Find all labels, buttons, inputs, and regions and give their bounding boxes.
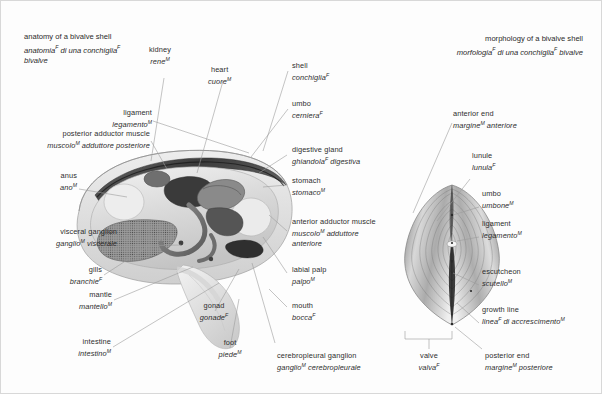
label-lunule: lunule lunulaF bbox=[472, 151, 495, 173]
label-foot-it: piedeM bbox=[201, 348, 259, 360]
label-heart-en: heart bbox=[208, 65, 231, 75]
label-foot-en: foot bbox=[201, 338, 259, 348]
label-valve: valve valvaF bbox=[403, 351, 455, 373]
label-umbo-left-en: umbo bbox=[292, 99, 323, 109]
label-anus-en: anus bbox=[25, 171, 77, 181]
label-stomach-it: stomacoM bbox=[292, 186, 325, 198]
label-lunule-it: lunulaF bbox=[472, 161, 495, 173]
label-escutcheon: escutcheon scutelloM bbox=[482, 267, 521, 289]
label-mantle: mantle mantelloM bbox=[49, 290, 112, 312]
label-lunule-en: lunule bbox=[472, 151, 495, 161]
label-posterior-end-it: margineM posteriore bbox=[485, 361, 553, 373]
label-labial-palp: labial palp palpoM bbox=[292, 265, 326, 287]
label-anterior-adductor-it2: anteriore bbox=[292, 239, 376, 249]
title-right-it: morfologiaF di una conchigliaF bivalve bbox=[457, 44, 583, 58]
title-left-it: anatomiaF di una conchigliaF bbox=[24, 42, 120, 56]
label-kidney-it: reneM bbox=[149, 55, 171, 67]
label-anus: anus anoM bbox=[25, 171, 77, 193]
label-escutcheon-en: escutcheon bbox=[482, 267, 521, 277]
label-gonad-en: gonad bbox=[183, 301, 245, 311]
label-stomach: stomach stomacoM bbox=[292, 176, 325, 198]
label-umbo-right-en: umbo bbox=[482, 189, 514, 199]
label-digestive-gland-en: digestive gland bbox=[292, 145, 360, 155]
label-gills: gills branchieF bbox=[41, 265, 102, 287]
label-stomach-en: stomach bbox=[292, 176, 325, 186]
label-escutcheon-it: scutelloM bbox=[482, 277, 521, 289]
label-anterior-adductor-it: muscoloM adduttore bbox=[292, 227, 376, 239]
label-growth-line-it: lineaF di accrescimentoM bbox=[482, 315, 565, 327]
label-posterior-adductor-it: muscoloM adduttore posteriore bbox=[1, 139, 150, 151]
label-gills-en: gills bbox=[41, 265, 102, 275]
title-right: morphology of a bivalve shell morfologia… bbox=[457, 34, 583, 58]
label-gonad-it: gonadeF bbox=[183, 311, 245, 323]
diagram-page: anatomy of a bivalve shell anatomiaF di … bbox=[0, 0, 602, 394]
label-valve-en: valve bbox=[403, 351, 455, 361]
label-mouth: mouth boccaF bbox=[292, 301, 315, 323]
label-ligament-left-en: ligament bbox=[102, 108, 152, 118]
title-right-en: morphology of a bivalve shell bbox=[457, 34, 583, 44]
label-foot: foot piedeM bbox=[201, 338, 259, 360]
label-kidney: kidney reneM bbox=[149, 45, 171, 67]
label-visceral-ganglion-en: visceral ganglion bbox=[17, 227, 117, 237]
label-anterior-adductor-en: anterior adductor muscle bbox=[292, 217, 376, 227]
label-mantle-en: mantle bbox=[49, 290, 112, 300]
label-ligament-right-en: ligament bbox=[482, 219, 522, 229]
label-valve-it: valvaF bbox=[403, 361, 455, 373]
label-gonad: gonad gonadeF bbox=[183, 301, 245, 323]
label-posterior-end: posterior end margineM posteriore bbox=[485, 351, 553, 373]
label-umbo-right-it: umboneM bbox=[482, 199, 514, 211]
label-growth-line: growth line lineaF di accrescimentoM bbox=[482, 305, 565, 327]
label-kidney-en: kidney bbox=[149, 45, 171, 55]
label-posterior-end-en: posterior end bbox=[485, 351, 553, 361]
label-gills-it: branchieF bbox=[41, 275, 102, 287]
label-heart-it: cuoreM bbox=[208, 75, 231, 87]
label-anterior-end-it: margineM anteriore bbox=[453, 119, 517, 131]
label-posterior-adductor-en: posterior adductor muscle bbox=[1, 129, 150, 139]
label-anus-it: anoM bbox=[25, 181, 77, 193]
label-digestive-gland: digestive gland ghiandolaF digestiva bbox=[292, 145, 360, 167]
label-anterior-end-en: anterior end bbox=[453, 109, 517, 119]
label-cerebropleural-en: cerebropleural ganglion bbox=[277, 351, 361, 361]
label-visceral-ganglion: visceral ganglion ganglioM viscerale bbox=[17, 227, 117, 249]
label-umbo-right: umbo umboneM bbox=[482, 189, 514, 211]
label-visceral-ganglion-it: ganglioM viscerale bbox=[17, 237, 117, 249]
label-intestine-it: intestinoM bbox=[43, 347, 111, 359]
title-left: anatomy of a bivalve shell anatomiaF di … bbox=[24, 32, 120, 67]
label-ligament-left: ligament legamentoM bbox=[102, 108, 152, 130]
label-umbo-left: umbo cernieraF bbox=[292, 99, 323, 121]
label-mantle-it: mantelloM bbox=[49, 300, 112, 312]
label-intestine: intestine intestinoM bbox=[43, 337, 111, 359]
label-posterior-adductor-muscle: posterior adductor muscle muscoloM addut… bbox=[1, 129, 150, 151]
label-anterior-adductor-muscle: anterior adductor muscle muscoloM addutt… bbox=[292, 217, 376, 248]
label-umbo-left-it: cernieraF bbox=[292, 109, 323, 121]
label-shell-it: conchigliaF bbox=[292, 71, 329, 83]
label-ligament-left-it: legamentoM bbox=[102, 118, 152, 130]
label-shell: shell conchigliaF bbox=[292, 61, 329, 83]
label-mouth-en: mouth bbox=[292, 301, 315, 311]
label-ligament-right-it: legamentoM bbox=[482, 229, 522, 241]
title-left-en: anatomy of a bivalve shell bbox=[24, 32, 120, 42]
label-mouth-it: boccaF bbox=[292, 311, 315, 323]
label-ligament-right: ligament legamentoM bbox=[482, 219, 522, 241]
label-digestive-gland-it: ghiandolaF digestiva bbox=[292, 155, 360, 167]
label-cerebropleural-ganglion: cerebropleural ganglion ganglioM cerebro… bbox=[277, 351, 361, 373]
label-heart: heart cuoreM bbox=[208, 65, 231, 87]
label-shell-en: shell bbox=[292, 61, 329, 71]
label-intestine-en: intestine bbox=[43, 337, 111, 347]
label-labial-palp-en: labial palp bbox=[292, 265, 326, 275]
label-growth-line-en: growth line bbox=[482, 305, 565, 315]
label-cerebropleural-it: ganglioM cerebropleurale bbox=[277, 361, 361, 373]
label-labial-palp-it: palpoM bbox=[292, 275, 326, 287]
title-left-it2: bivalve bbox=[24, 56, 120, 66]
label-anterior-end: anterior end margineM anteriore bbox=[453, 109, 517, 131]
